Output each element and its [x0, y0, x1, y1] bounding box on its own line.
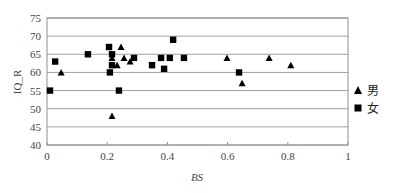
y-tick-label: 55 — [30, 85, 42, 97]
x-tick-label: 1 — [345, 150, 351, 162]
x-tick-label: 0.2 — [100, 150, 114, 162]
square-marker-icon — [236, 69, 242, 75]
square-marker-icon — [352, 104, 364, 112]
square-marker-icon — [149, 62, 155, 68]
scatter-chart: 4045505560657075 00.20.40.60.81 IQ_R BS — [0, 0, 395, 193]
triangle-marker-icon — [109, 112, 116, 119]
square-marker-icon — [85, 51, 91, 57]
plot-area — [47, 18, 348, 145]
square-marker-icon — [116, 87, 122, 93]
y-axis-ticks: 4045505560657075 — [30, 12, 42, 151]
legend-label-male: 男 — [367, 81, 379, 99]
x-axis-title: BS — [191, 171, 204, 183]
triangle-marker-icon — [352, 86, 364, 94]
y-tick-label: 65 — [30, 48, 42, 60]
square-marker-icon — [161, 66, 167, 72]
square-marker-icon — [109, 51, 115, 57]
square-marker-icon — [158, 55, 164, 61]
legend-item-female: 女 — [352, 99, 379, 117]
x-tick-label: 0.8 — [281, 150, 295, 162]
y-tick-label: 50 — [30, 103, 42, 115]
y-tick-label: 40 — [30, 139, 42, 151]
square-marker-icon — [106, 44, 112, 50]
square-marker-icon — [107, 69, 113, 75]
triangle-marker-icon — [239, 80, 246, 87]
square-marker-icon — [181, 55, 187, 61]
triangle-marker-icon — [118, 44, 125, 51]
y-tick-label: 45 — [30, 121, 42, 133]
square-marker-icon — [52, 58, 58, 64]
data-points — [47, 37, 295, 119]
y-tick-label: 75 — [30, 12, 42, 24]
x-tick-label: 0.6 — [221, 150, 235, 162]
triangle-marker-icon — [121, 54, 128, 61]
legend-item-male: 男 — [352, 81, 379, 99]
legend: 男 女 — [352, 81, 379, 117]
triangle-marker-icon — [266, 54, 273, 61]
y-tick-label: 70 — [30, 30, 42, 42]
square-marker-icon — [47, 87, 53, 93]
triangle-marker-icon — [287, 62, 294, 68]
square-marker-icon — [170, 37, 176, 43]
x-tick-label: 0.4 — [161, 150, 175, 162]
square-marker-icon — [167, 55, 173, 61]
square-marker-icon — [109, 62, 115, 68]
gridlines — [47, 18, 348, 145]
y-tick-label: 60 — [30, 66, 42, 78]
square-marker-icon — [131, 55, 137, 61]
y-axis-title: IQ_R — [11, 69, 23, 94]
legend-label-female: 女 — [367, 99, 379, 117]
triangle-marker-icon — [223, 54, 230, 61]
x-tick-label: 0 — [44, 150, 50, 162]
